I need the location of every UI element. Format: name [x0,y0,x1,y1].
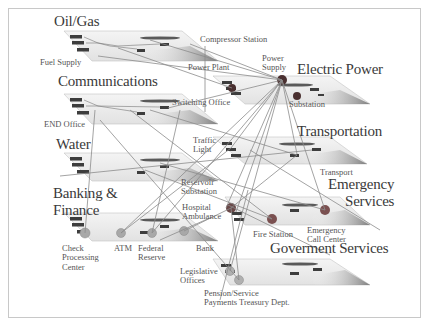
plane-government-services [213,259,370,285]
label-pension-payments: Pension/Service Payments Treasury Dept. [204,289,290,308]
label-hospital-ambulance: Hospital Ambulance [182,203,221,222]
sector-title-transportation: Transportation [297,123,382,140]
label-legislative-offices: Legislative Offices [180,267,218,286]
sector-title-emergency-services: Emergency Services [328,176,394,209]
label-compressor-station: Compressor Station [200,35,267,44]
label-traffic-light: Traffic Light [193,136,216,155]
sector-title-communications: Communications [58,73,158,90]
label-atm: ATM [114,244,132,253]
label-power-plant: Power Plant [188,63,229,72]
label-federal-reserve: Federal Reserve [138,244,165,263]
label-end-office: END Office [44,120,85,129]
label-power-supply: Power Supply [262,54,286,73]
sector-title-banking-finance: Banking & Finance [53,185,117,218]
label-reservoir-substation: Reservoir Substation [181,178,217,197]
label-bank: Bank [196,244,214,253]
sector-title-oil-gas: Oil/Gas [54,13,99,30]
label-switching-office: Switching Office [172,98,230,107]
sector-title-water: Water [56,136,90,153]
sector-title-government-services: Goverment Services [270,240,388,257]
label-substation: Substation [289,100,325,109]
label-fuel-supply: Fuel Supply [40,58,81,67]
sector-title-electric-power: Electric Power [297,61,383,78]
label-fire-station: Fire Station [253,230,293,239]
label-check-processing-center: Check Processing Center [62,244,99,272]
